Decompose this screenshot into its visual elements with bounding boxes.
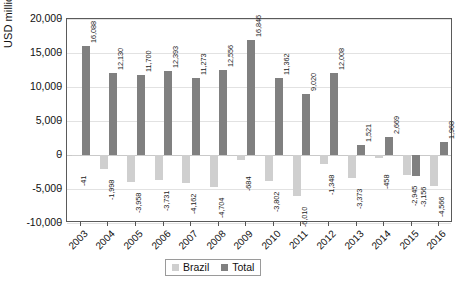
bar-total-2008[interactable] <box>219 70 227 155</box>
legend-swatch-icon <box>172 264 179 271</box>
y-tick-mark <box>58 154 62 155</box>
x-tick-label-2016: 2016 <box>420 228 448 256</box>
bar-brazil-2010[interactable] <box>265 155 273 181</box>
x-tick-mark <box>383 222 384 226</box>
bar-group: -3,80211,362 <box>260 19 288 221</box>
bar-total-2007[interactable] <box>192 78 200 155</box>
y-tick-label: 15,000 <box>18 47 62 57</box>
x-tick-label-2013: 2013 <box>338 228 366 256</box>
bar-value-label: -4,162 <box>190 194 198 214</box>
bar-total-2012[interactable] <box>330 73 338 155</box>
bar-group: -1,34812,008 <box>315 19 343 221</box>
bar-group: -4,16211,273 <box>177 19 205 221</box>
bar-value-label: -3,802 <box>273 191 281 211</box>
x-tick-label-2010: 2010 <box>255 228 283 256</box>
bar-value-label: -41 <box>80 176 88 186</box>
y-tick-mark <box>58 222 62 223</box>
bar-total-2016[interactable] <box>440 142 448 155</box>
y-tick-label: 20,000 <box>18 13 62 23</box>
bar-group: -4116,088 <box>67 19 95 221</box>
bar-value-label: -4,566 <box>438 197 446 217</box>
x-tick-mark <box>135 222 136 226</box>
bar-brazil-2004[interactable] <box>100 155 108 169</box>
bar-value-label: -3,958 <box>135 193 143 213</box>
bar-total-2010[interactable] <box>275 78 283 155</box>
x-tick-label-2007: 2007 <box>172 228 200 256</box>
bar-value-label: -2,945 <box>411 186 419 206</box>
x-tick-mark <box>411 222 412 226</box>
x-tick-label-2006: 2006 <box>145 228 173 256</box>
chart-legend: BrazilTotal <box>165 259 261 276</box>
bar-total-2013[interactable] <box>357 145 365 155</box>
bar-total-2003[interactable] <box>82 46 90 155</box>
x-tick-label-2009: 2009 <box>227 228 255 256</box>
bar-brazil-2012[interactable] <box>320 155 328 164</box>
x-tick-mark <box>245 222 246 226</box>
bar-total-2011[interactable] <box>302 94 310 155</box>
y-tick-mark <box>58 52 62 53</box>
plot-area: -4116,088-1,99812,130-3,95811,700-3,7311… <box>66 18 452 222</box>
x-tick-label-2003: 2003 <box>62 228 90 256</box>
bar-total-2005[interactable] <box>137 75 145 155</box>
bar-brazil-2011[interactable] <box>293 155 301 196</box>
legend-label: Brazil <box>183 262 209 273</box>
bar-value-label: -3,731 <box>163 191 171 211</box>
bar-group: -4582,669 <box>370 19 398 221</box>
bar-group: -3,3731,521 <box>343 19 371 221</box>
bar-value-label: -1,348 <box>328 175 336 195</box>
bar-brazil-2006[interactable] <box>155 155 163 180</box>
x-tick-label-2015: 2015 <box>393 228 421 256</box>
bar-group: -4,5661,968 <box>425 19 453 221</box>
bar-total-2006[interactable] <box>164 71 172 155</box>
bar-group: -68416,846 <box>232 19 260 221</box>
x-tick-mark <box>356 222 357 226</box>
bar-brazil-2013[interactable] <box>348 155 356 178</box>
bar-group: -6,0109,020 <box>288 19 316 221</box>
x-tick-mark <box>80 222 81 226</box>
y-tick-mark <box>58 18 62 19</box>
bar-chart: USD millions 20,00015,00010,0005,0000-5,… <box>0 0 459 289</box>
bar-group: -2,945-3,156 <box>398 19 426 221</box>
x-tick-mark <box>328 222 329 226</box>
bar-brazil-2008[interactable] <box>210 155 218 187</box>
y-tick-label: 0 <box>18 149 62 159</box>
y-tick-label: -10,000 <box>18 217 62 227</box>
bar-brazil-2003[interactable] <box>72 155 80 156</box>
y-tick-label: 10,000 <box>18 81 62 91</box>
y-axis-ticks: 20,00015,00010,0005,0000-5,000-10,000 <box>10 0 62 289</box>
x-axis-labels: 2003200420052006200720082009201020112012… <box>66 222 452 262</box>
x-tick-label-2012: 2012 <box>310 228 338 256</box>
y-tick-mark <box>58 188 62 189</box>
bar-total-2004[interactable] <box>109 73 117 155</box>
x-tick-mark <box>107 222 108 226</box>
legend-item-total[interactable]: Total <box>221 262 254 273</box>
x-tick-mark <box>163 222 164 226</box>
bar-group: -3,95811,700 <box>122 19 150 221</box>
x-tick-mark <box>190 222 191 226</box>
x-tick-label-2004: 2004 <box>90 228 118 256</box>
x-tick-mark <box>438 222 439 226</box>
bar-brazil-2005[interactable] <box>127 155 135 182</box>
bar-total-2014[interactable] <box>385 137 393 155</box>
legend-swatch-icon <box>221 264 228 271</box>
bar-group: -4,70412,556 <box>205 19 233 221</box>
bar-total-2015[interactable] <box>412 155 420 176</box>
bar-group: -3,73112,393 <box>150 19 178 221</box>
bar-brazil-2016[interactable] <box>430 155 438 186</box>
x-tick-mark <box>300 222 301 226</box>
bar-value-label: -458 <box>383 175 391 189</box>
bar-value-label: -4,704 <box>218 198 226 218</box>
x-tick-label-2011: 2011 <box>283 228 311 256</box>
bar-group: -1,99812,130 <box>95 19 123 221</box>
bar-brazil-2014[interactable] <box>375 155 383 158</box>
bar-brazil-2009[interactable] <box>237 155 245 160</box>
legend-item-brazil[interactable]: Brazil <box>172 262 209 273</box>
x-tick-mark <box>218 222 219 226</box>
x-tick-label-2014: 2014 <box>365 228 393 256</box>
bar-brazil-2007[interactable] <box>182 155 190 183</box>
bar-brazil-2015[interactable] <box>403 155 411 175</box>
x-tick-label-2005: 2005 <box>117 228 145 256</box>
bar-value-label: 1,968 <box>448 121 456 139</box>
bar-value-label: -3,373 <box>356 189 364 209</box>
bar-total-2009[interactable] <box>247 40 255 155</box>
